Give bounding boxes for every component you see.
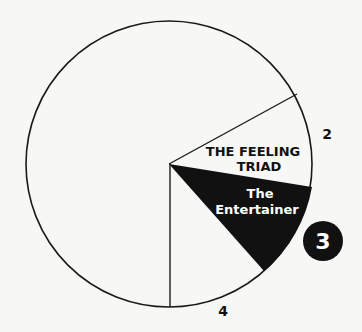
number-4-label: 4 bbox=[218, 303, 228, 319]
feeling-triad-label-line1: THE FEELING bbox=[206, 144, 300, 159]
feeling-triad-diagram: THE FEELING TRIAD The Entertainer 2 3 4 bbox=[0, 0, 362, 332]
number-2-label: 2 bbox=[322, 126, 332, 142]
entertainer-label-line1: The bbox=[247, 186, 274, 201]
entertainer-wedge bbox=[169, 164, 312, 271]
number-3-label: 3 bbox=[315, 229, 330, 254]
feeling-triad-label-line2: TRIAD bbox=[237, 159, 282, 174]
entertainer-label-line2: Entertainer bbox=[215, 202, 299, 217]
